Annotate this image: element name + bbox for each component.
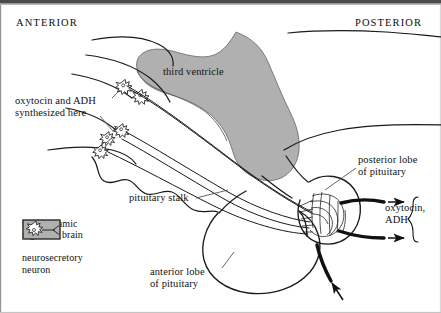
leader-pituitary-stalk (196, 190, 228, 198)
pituitary-structures (203, 176, 361, 294)
legend-item-neurosecretory-neuron: neurosecretory neuron (22, 252, 83, 274)
leader-anterior-lobe (222, 252, 234, 268)
pituitary-stalk-label: pituitary stalk (129, 192, 189, 204)
neuron-cell-5 (93, 145, 109, 159)
leader-oxytocin-synth-upper (112, 90, 120, 98)
legend: hypothalamic region of brain neurosecret… (22, 218, 83, 275)
leader-oxytocin-synth-lower (100, 116, 112, 130)
oxytocin-adh-synthesized-label: oxytocin and ADH synthesized here (15, 95, 96, 119)
hypothalamic-region-shape (137, 32, 300, 181)
neurosecretory-neuron-icon (22, 219, 62, 241)
third-ventricle-label: third ventricle (163, 66, 224, 78)
posterior-lobe-label: posterior lobe of pituitary (358, 154, 417, 178)
neuron-cell-3 (114, 124, 130, 138)
legend-label-neurosecretory-neuron: neurosecretory neuron (22, 252, 83, 274)
orientation-posterior-label: POSTERIOR (355, 17, 422, 29)
descending-vessel (317, 245, 331, 281)
arrow-bloodstream-down (332, 283, 343, 300)
hormone-output-label: oxytocin, ADH (385, 202, 425, 226)
efferent-vessel-upper (341, 200, 384, 203)
neurosecretory-neurons-group (93, 79, 149, 158)
anterior-lobe-label: anterior lobe of pituitary (150, 266, 205, 290)
orientation-anterior-label: ANTERIOR (16, 17, 78, 29)
efferent-vessel-lower (339, 231, 384, 238)
neuron-cell-4 (100, 132, 116, 146)
anatomical-diagram-figure: ANTERIOR POSTERIOR third ventricle oxyto… (0, 0, 441, 313)
